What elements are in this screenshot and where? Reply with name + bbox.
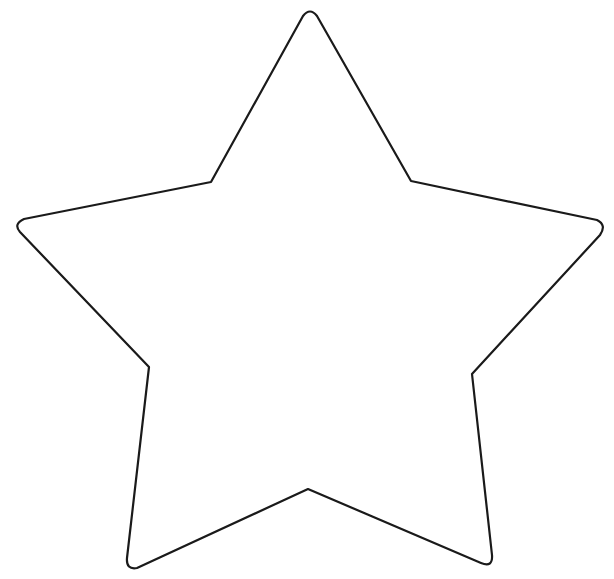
star-outline-shape	[17, 12, 603, 569]
star-canvas	[0, 0, 614, 579]
